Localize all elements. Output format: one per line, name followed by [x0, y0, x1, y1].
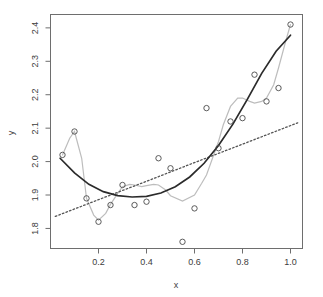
y-tick-label: 2.2	[30, 88, 40, 101]
data-point	[276, 85, 281, 90]
data-point	[240, 115, 245, 120]
x-axis-label: x	[174, 280, 179, 290]
plot-frame	[51, 15, 303, 249]
data-point	[144, 199, 149, 204]
x-tick-label: 0.8	[236, 257, 249, 267]
y-tick-label: 1.8	[30, 222, 40, 235]
x-tick-label: 0.4	[140, 257, 153, 267]
plot-border	[51, 15, 303, 249]
x-tick-label: 0.2	[92, 257, 105, 267]
data-point	[180, 239, 185, 244]
data-points	[60, 22, 293, 245]
curve-quadratic-fit	[60, 35, 290, 197]
data-point	[156, 156, 161, 161]
data-point	[252, 72, 257, 77]
x-tick-label: 1.0	[284, 257, 297, 267]
scatter-plot-svg: 1.81.92.02.12.22.32.4 0.20.40.60.81.0 x …	[0, 0, 323, 297]
y-tick-label: 2.1	[30, 122, 40, 135]
y-tick-label: 2.3	[30, 55, 40, 68]
chart-figure: 1.81.92.02.12.22.32.4 0.20.40.60.81.0 x …	[0, 0, 323, 297]
x-tick-label: 0.6	[188, 257, 201, 267]
y-tick-label: 1.9	[30, 189, 40, 202]
y-axis-label: y	[6, 130, 16, 135]
x-axis-ticks: 0.20.40.60.81.0	[92, 249, 297, 267]
y-tick-label: 2.0	[30, 155, 40, 168]
data-point	[192, 206, 197, 211]
curve-linear-fit	[55, 123, 297, 217]
data-point	[204, 105, 209, 110]
data-point	[168, 166, 173, 171]
data-point	[228, 119, 233, 124]
curve-spline-fit	[63, 25, 291, 221]
data-point	[264, 99, 269, 104]
y-tick-label: 2.4	[30, 22, 40, 35]
data-point	[132, 202, 137, 207]
fitted-curves	[55, 25, 297, 221]
y-axis-ticks: 1.81.92.02.12.22.32.4	[30, 22, 50, 235]
